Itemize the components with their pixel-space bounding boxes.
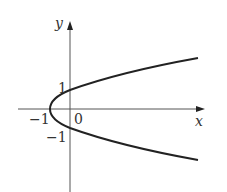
parabola-diagram: y x 1 −1 0 −1 — [0, 0, 227, 192]
y-axis-arrow-icon — [67, 21, 73, 30]
tick-label-origin: 0 — [74, 111, 83, 127]
x-axis-arrow-icon — [196, 106, 205, 112]
tick-label-y-neg1: −1 — [46, 129, 67, 145]
y-axis-label: y — [54, 15, 64, 31]
x-axis-label: x — [195, 113, 203, 129]
tick-label-y-1: 1 — [58, 80, 67, 96]
tick-label-x-neg1: −1 — [29, 111, 50, 127]
